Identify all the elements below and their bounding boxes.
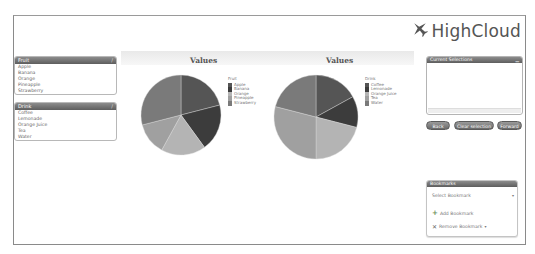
airplane-icon <box>411 20 429 42</box>
pie-chart-fruit[interactable] <box>140 74 222 156</box>
add-bookmark-button[interactable]: + Add Bookmark <box>432 209 474 217</box>
close-icon: ✕ <box>432 223 437 230</box>
current-selections-header: Current Selections ▁ <box>427 57 522 63</box>
remove-bookmark-label: Remove Bookmark <box>439 224 482 229</box>
listbox-title: Drink <box>18 103 31 109</box>
horizontal-scrollbar[interactable] <box>428 108 521 113</box>
back-button[interactable]: Back <box>426 121 450 130</box>
forward-button[interactable]: Forward <box>497 121 522 130</box>
chevron-down-icon: ▾ <box>512 193 514 198</box>
pie-chart-drink[interactable] <box>273 74 359 160</box>
logo-text: HighCloud <box>432 21 521 41</box>
current-selections-box: Current Selections ▁ <box>426 56 523 115</box>
search-icon[interactable]: ∕ <box>111 103 113 110</box>
legend-swatch <box>228 101 232 106</box>
legend-title: Fruit <box>228 77 256 82</box>
bookmarks-header: Bookmarks <box>427 181 517 187</box>
legend-item[interactable]: Strawberry <box>228 101 256 106</box>
bookmarks-box: Bookmarks Select Bookmark ▾ + Add Bookma… <box>426 180 518 237</box>
legend-label: Water <box>371 101 383 106</box>
legend-label: Strawberry <box>234 101 256 106</box>
chart-area: Values Values Fruit AppleBananaOrangePin… <box>121 51 414 201</box>
listbox-header[interactable]: Fruit ∕ <box>15 57 116 64</box>
add-bookmark-label: Add Bookmark <box>440 211 474 216</box>
chart-header-band <box>121 51 414 65</box>
chart-title-fruit: Values <box>190 56 217 65</box>
list-item[interactable]: Water <box>15 134 116 140</box>
remove-bookmark-button[interactable]: ✕ Remove Bookmark ▾ <box>432 223 486 230</box>
listbox-drink: Drink ∕ Coffee Lemonade Orange Juice Tea… <box>14 102 117 141</box>
legend-fruit: Fruit AppleBananaOrangePineappleStrawber… <box>228 77 256 106</box>
app-logo: HighCloud <box>411 20 521 42</box>
legend-title: Drink <box>365 77 397 82</box>
chevron-down-icon: ▾ <box>484 224 486 229</box>
bookmark-select[interactable]: Select Bookmark ▾ <box>432 193 514 198</box>
search-icon[interactable]: ∕ <box>111 57 113 64</box>
legend-swatch <box>365 101 369 106</box>
list-item[interactable]: Strawberry <box>15 88 116 94</box>
legend-drink: Drink CoffeeLemonadeOrange JuiceTeaWater <box>365 77 397 106</box>
chart-title-drink: Values <box>326 56 353 65</box>
listbox-fruit: Fruit ∕ Apple Banana Orange Pineapple St… <box>14 56 117 95</box>
bookmark-select-value: Select Bookmark <box>432 193 471 198</box>
listbox-title: Fruit <box>18 57 29 63</box>
minimize-icon[interactable]: ▁ <box>515 57 519 63</box>
current-selections-title: Current Selections <box>430 57 472 62</box>
clear-selection-button[interactable]: Clear selection <box>454 121 494 130</box>
legend-item[interactable]: Water <box>365 101 397 106</box>
plus-icon: + <box>432 209 438 217</box>
listbox-header[interactable]: Drink ∕ <box>15 103 116 110</box>
